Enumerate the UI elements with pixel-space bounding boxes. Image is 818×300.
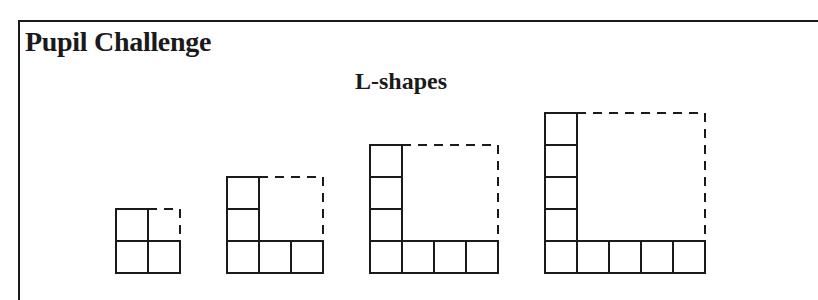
- square-cell: [402, 241, 434, 273]
- square-cell: [545, 241, 577, 273]
- square-cell: [545, 209, 577, 241]
- dashed-square-outline: [577, 113, 705, 241]
- square-cell: [227, 177, 259, 209]
- dashed-square-outline: [148, 209, 180, 241]
- l-shape-3: [227, 177, 323, 273]
- square-cell: [370, 177, 402, 209]
- square-cell: [577, 241, 609, 273]
- square-cell: [434, 241, 466, 273]
- square-cell: [370, 241, 402, 273]
- square-cell: [545, 145, 577, 177]
- square-cell: [466, 241, 498, 273]
- square-cell: [116, 241, 148, 273]
- square-cell: [370, 145, 402, 177]
- square-cell: [545, 113, 577, 145]
- square-cell: [227, 209, 259, 241]
- square-cell: [641, 241, 673, 273]
- l-shape-2: [116, 209, 180, 273]
- square-cell: [291, 241, 323, 273]
- dashed-square-outline: [259, 177, 323, 241]
- square-cell: [227, 241, 259, 273]
- square-cell: [148, 241, 180, 273]
- square-cell: [673, 241, 705, 273]
- l-shape-5: [545, 113, 705, 273]
- square-cell: [609, 241, 641, 273]
- dashed-square-outline: [402, 145, 498, 241]
- square-cell: [545, 177, 577, 209]
- square-cell: [259, 241, 291, 273]
- square-cell: [370, 209, 402, 241]
- l-shape-4: [370, 145, 498, 273]
- square-cell: [116, 209, 148, 241]
